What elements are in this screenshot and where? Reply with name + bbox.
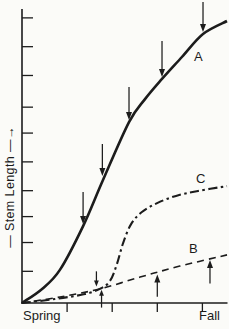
x-tick-label-fall: Fall [199,309,220,322]
x-tick-label-spring: Spring [23,309,61,322]
y-axis-label: — Stem Length —→ [4,126,17,248]
curve-b-label: B [189,242,198,255]
growth-curves-figure: — Stem Length —→ A C B Spring Fall [0,0,229,329]
curve-a-label: A [194,50,203,63]
curve-c-label: C [196,172,205,185]
